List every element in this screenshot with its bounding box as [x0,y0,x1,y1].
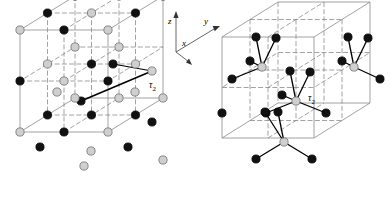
atom-dark [148,118,156,126]
atom-dark [252,155,260,163]
tau-subscript: 2 [311,98,315,106]
atom-light [131,60,139,68]
atom-dark [218,109,226,117]
atom-dark [272,34,280,42]
atom-light [159,156,167,164]
atom-dark [87,111,95,119]
atom-dark [60,26,68,34]
atom-dark [364,34,372,42]
tau2-label-zincblende: τ2 [308,94,315,106]
y-axis-arrowhead [213,26,220,31]
atom-light [115,43,123,51]
atom-light [159,94,167,102]
atom-light [115,94,123,102]
atom-dark [261,108,269,116]
atom-dark [278,91,286,99]
atom-dark [286,67,294,75]
atom-dark [109,60,117,68]
atom-light [16,128,24,136]
tau2-label-rocksalt: τ2 [149,81,156,93]
atom-light [80,162,88,170]
atom-dark [43,111,51,119]
atom-light [87,147,95,155]
atom-dark [124,143,132,151]
atom-dark [376,75,384,83]
z-axis-arrowhead [173,11,178,18]
x-axis-arrowhead [186,59,192,65]
atom-light [71,43,79,51]
atom-dark [274,108,282,116]
y-axis-label: y [204,17,208,26]
zincblende-cell-wireframe [222,2,370,138]
atom-light [60,77,68,85]
tau-subscript: 2 [152,85,156,93]
z-axis-label: z [168,17,172,26]
atom-light [292,97,300,105]
atom-dark [228,75,236,83]
atom-dark [16,77,24,85]
atom-dark [104,77,112,85]
atom-dark [338,57,346,65]
atom-dark [131,9,139,17]
atom-light [87,9,95,17]
atom-light [280,138,288,146]
atom-light [350,63,358,71]
atom-light [71,94,79,102]
atom-dark [344,33,352,41]
atom-dark [306,68,314,76]
atom-light [131,88,139,96]
rocksalt-panel [16,0,167,170]
atom-light [16,26,24,34]
atom-dark [322,109,330,117]
crystal-structure-figure [0,0,391,197]
atom-light [148,67,156,75]
atom-dark [87,60,95,68]
atom-dark [252,33,260,41]
x-axis-label: x [182,39,186,48]
atom-dark [36,143,44,151]
zincblende-bonds [232,37,380,159]
atom-light [104,26,112,34]
coordinate-triad [173,11,220,65]
rocksalt-atoms-middle [16,43,156,105]
atom-dark [246,57,254,65]
atom-light [258,63,266,71]
atom-light [53,88,61,96]
atom-dark [308,155,316,163]
atom-dark [60,128,68,136]
atom-light [104,128,112,136]
atom-dark [131,111,139,119]
x-axis-line [176,52,189,62]
atom-dark [43,9,51,17]
rocksalt-atoms-outer [36,143,167,170]
atom-light [43,60,51,68]
zincblende-panel [218,2,384,163]
